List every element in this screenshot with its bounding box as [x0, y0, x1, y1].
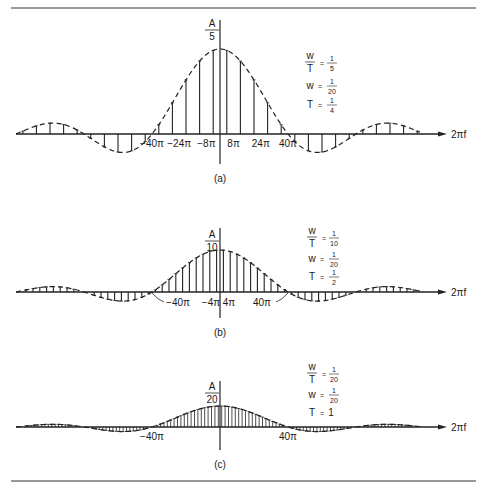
- equals-sign: =: [320, 392, 324, 399]
- x-axis-arrow-icon: [438, 425, 447, 430]
- tick-label: −8π: [197, 138, 215, 149]
- amplitude-denominator: 20: [206, 394, 218, 405]
- param-rhs-den: 5: [330, 65, 334, 72]
- equals-sign: =: [318, 83, 322, 90]
- equals-sign: =: [322, 371, 326, 378]
- equals-sign: =: [320, 410, 324, 417]
- amplitude-denominator: 5: [209, 31, 215, 42]
- amplitude-numerator: A: [209, 18, 216, 29]
- parameters: wT=120w=120T=1: [307, 361, 339, 418]
- panel-b: 2πfA10−40π−4π4π40πwT=110w=120T=12(b): [16, 225, 466, 338]
- tick-label: 40π: [279, 138, 297, 149]
- param-lhs-den: T: [309, 238, 315, 249]
- param-lhs-num: w: [307, 361, 316, 372]
- amplitude-numerator: A: [209, 381, 216, 392]
- equals-sign: =: [320, 256, 324, 263]
- x-axis-label: 2πf: [451, 129, 466, 140]
- pointer-arrow-icon: [276, 293, 288, 302]
- tick-label: 24π: [252, 138, 270, 149]
- param-lhs: w: [307, 389, 316, 400]
- tick-label: −40π: [166, 297, 190, 308]
- param-lhs-num: w: [305, 50, 314, 61]
- panel-c: 2πfA20−40π40πwT=120w=120T=1(c): [16, 361, 466, 470]
- param-rhs-den: 10: [330, 240, 338, 247]
- param-rhs-num: 1: [330, 78, 334, 85]
- equals-sign: =: [318, 102, 322, 109]
- sinc-envelope: [16, 250, 420, 301]
- spectrum-figure: 2πfA5−40π−24π−8π8π24π40πwT=15w=120T=14(a…: [0, 0, 487, 488]
- x-axis-arrow-icon: [438, 132, 447, 137]
- amplitude-numerator: A: [209, 229, 216, 240]
- panel-caption: (b): [214, 327, 226, 338]
- param-rhs-num: 1: [332, 269, 336, 276]
- param-rhs-den: 2: [332, 279, 336, 286]
- tick-label: 40π: [279, 431, 297, 442]
- tick-label: 8π: [227, 138, 240, 149]
- param-lhs-den: T: [307, 63, 313, 74]
- amplitude-label: A20: [205, 381, 219, 405]
- equals-sign: =: [322, 235, 326, 242]
- tick-label: −24π: [167, 138, 191, 149]
- panel-caption: (c): [214, 459, 226, 470]
- amplitude-label: A5: [205, 18, 219, 42]
- x-axis-arrow-icon: [438, 290, 447, 295]
- param-rhs-den: 20: [330, 261, 338, 268]
- param-rhs-num: 1: [332, 366, 336, 373]
- param-rhs-num: 1: [330, 97, 334, 104]
- param-rhs-num: 1: [332, 230, 336, 237]
- param-lhs-den: T: [309, 374, 315, 385]
- parameters: wT=15w=120T=14: [305, 50, 337, 114]
- param-rhs-den: 4: [330, 107, 334, 114]
- equals-sign: =: [320, 274, 324, 281]
- param-lhs: T: [309, 271, 315, 282]
- param-lhs: T: [309, 407, 315, 418]
- tick-label: −40π: [140, 431, 164, 442]
- param-lhs: T: [307, 99, 313, 110]
- parameters: wT=110w=120T=12: [307, 225, 339, 286]
- panel-a: 2πfA5−40π−24π−8π8π24π40πwT=15w=120T=14(a…: [16, 18, 466, 184]
- param-lhs: w: [307, 253, 316, 264]
- param-rhs: 1: [328, 407, 334, 418]
- tick-label: 4π: [223, 297, 236, 308]
- x-axis-label: 2πf: [451, 287, 466, 298]
- param-lhs-num: w: [307, 225, 316, 236]
- param-rhs-num: 1: [332, 251, 336, 258]
- amplitude-label: A10: [205, 229, 219, 253]
- x-axis-label: 2πf: [451, 422, 466, 433]
- pointer-arrow-icon: [152, 293, 164, 302]
- param-rhs-den: 20: [328, 88, 336, 95]
- tick-label: −40π: [140, 138, 164, 149]
- equals-sign: =: [320, 60, 324, 67]
- sinc-envelope: [16, 49, 420, 152]
- tick-label: −4π: [202, 297, 220, 308]
- panel-caption: (a): [214, 173, 226, 184]
- param-lhs: w: [305, 80, 314, 91]
- param-rhs-num: 1: [330, 55, 334, 62]
- tick-label: 40π: [253, 297, 271, 308]
- param-rhs-den: 20: [330, 376, 338, 383]
- param-rhs-num: 1: [332, 387, 336, 394]
- param-rhs-den: 20: [330, 397, 338, 404]
